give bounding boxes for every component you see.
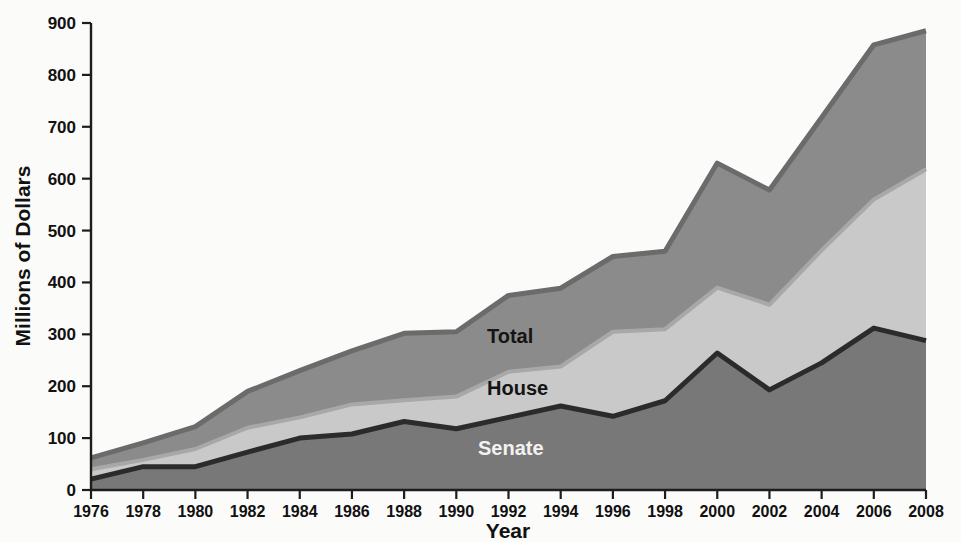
x-tick-label: 1998 xyxy=(647,503,683,520)
x-tick-label: 2008 xyxy=(908,503,944,520)
y-tick-label: 900 xyxy=(48,14,76,33)
y-tick-label: 600 xyxy=(48,170,76,189)
y-axis-tick-labels: 0100200300400500600700800900 xyxy=(48,14,76,500)
x-axis-tick-labels: 1976197819801982198419861988199019921994… xyxy=(73,503,944,520)
x-axis-ticks xyxy=(91,490,926,499)
y-tick-label: 700 xyxy=(48,118,76,137)
y-tick-label: 100 xyxy=(48,429,76,448)
y-tick-label: 400 xyxy=(48,273,76,292)
x-tick-label: 2002 xyxy=(752,503,788,520)
x-tick-label: 1990 xyxy=(439,503,475,520)
x-tick-label: 1976 xyxy=(73,503,109,520)
x-tick-label: 2004 xyxy=(804,503,840,520)
series-label-house: House xyxy=(487,377,548,399)
y-tick-label: 300 xyxy=(48,325,76,344)
y-axis-ticks xyxy=(82,23,91,490)
x-tick-label: 1982 xyxy=(230,503,266,520)
y-tick-label: 200 xyxy=(48,377,76,396)
y-tick-label: 800 xyxy=(48,66,76,85)
x-tick-label: 1994 xyxy=(543,503,579,520)
area-chart: 0100200300400500600700800900 19761978198… xyxy=(0,0,961,542)
y-tick-label: 500 xyxy=(48,222,76,241)
plot-areas xyxy=(91,31,926,490)
x-tick-label: 1986 xyxy=(334,503,370,520)
x-tick-label: 1992 xyxy=(491,503,527,520)
x-tick-label: 2000 xyxy=(699,503,735,520)
x-tick-label: 2006 xyxy=(856,503,892,520)
series-label-senate: Senate xyxy=(478,437,544,459)
x-tick-label: 1978 xyxy=(125,503,161,520)
chart-container: 0100200300400500600700800900 19761978198… xyxy=(0,0,961,542)
x-tick-label: 1984 xyxy=(282,503,318,520)
y-axis-title: Millions of Dollars xyxy=(11,166,34,347)
x-axis-title: Year xyxy=(486,519,530,542)
y-tick-label: 0 xyxy=(67,481,76,500)
x-tick-label: 1996 xyxy=(595,503,631,520)
series-label-total: Total xyxy=(487,325,533,347)
x-tick-label: 1980 xyxy=(178,503,214,520)
x-tick-label: 1988 xyxy=(386,503,422,520)
